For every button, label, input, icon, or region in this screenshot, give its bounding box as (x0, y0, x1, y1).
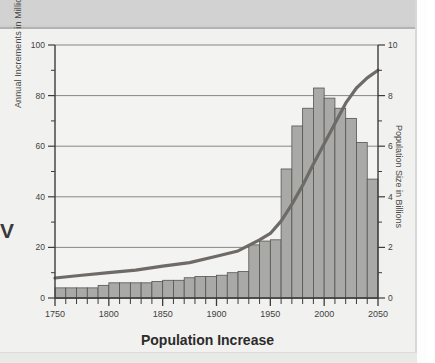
bar-1890 (206, 277, 217, 299)
bar-1770 (77, 288, 88, 298)
y2tick-label-6: 6 (388, 141, 393, 151)
bar-1860 (173, 280, 184, 298)
bar-1880 (195, 277, 206, 299)
x-axis-title: Population Increase (0, 332, 415, 348)
page-right-gutter (415, 0, 435, 363)
y2tick-label-4: 4 (388, 192, 393, 202)
y2tick-label-8: 8 (388, 91, 393, 101)
population-increase-chart: 0204060801000246810175018001850190019502… (0, 29, 415, 354)
bar-1980 (303, 108, 314, 298)
y2tick-label-10: 10 (388, 40, 398, 50)
bar-1920 (238, 271, 249, 298)
bar-1990 (313, 88, 324, 298)
page-top-band (0, 0, 417, 29)
bar-2020 (346, 118, 357, 298)
page-bottom-strip (0, 352, 417, 363)
ytick-label-80: 80 (36, 91, 46, 101)
bar-1940 (260, 241, 271, 298)
ytick-label-60: 60 (36, 141, 46, 151)
bar-1870 (184, 278, 195, 298)
bar-1840 (152, 282, 163, 298)
bar-1930 (249, 245, 260, 298)
y-axis-left-label-text: Annual Increments in Millions (13, 0, 23, 108)
bar-1760 (66, 288, 77, 298)
xtick-label-2000: 2000 (314, 309, 334, 319)
bar-1800 (109, 283, 120, 298)
xtick-label-1750: 1750 (45, 309, 65, 319)
bar-1810 (120, 283, 131, 298)
y2tick-label-2: 2 (388, 242, 393, 252)
bar-1970 (292, 126, 303, 298)
xtick-label-1950: 1950 (260, 309, 280, 319)
y-axis-right-label: Population Size in Billions (394, 125, 404, 295)
bar-1780 (87, 288, 98, 298)
bar-1900 (217, 275, 228, 298)
bar-1830 (141, 283, 152, 298)
bar-1850 (163, 280, 174, 298)
y-axis-left-label: Annual Increments in Millions (13, 0, 23, 108)
page-right-gutter-inner (427, 0, 435, 363)
xtick-label-1900: 1900 (206, 309, 226, 319)
bar-2030 (356, 142, 367, 298)
xtick-label-1850: 1850 (153, 309, 173, 319)
bar-1910 (227, 273, 238, 298)
xtick-label-2050: 2050 (368, 309, 388, 319)
bar-1820 (130, 283, 141, 298)
y2tick-label-0: 0 (388, 293, 393, 303)
bar-1950 (270, 240, 281, 298)
figure-page: V 02040608010002468101750180018501900195… (0, 0, 435, 363)
page-top-band-inner (0, 0, 415, 25)
xtick-label-1800: 1800 (99, 309, 119, 319)
y-axis-right-label-text: Population Size in Billions (394, 125, 404, 228)
bar-2040 (367, 179, 378, 298)
ytick-label-40: 40 (36, 192, 46, 202)
ytick-label-100: 100 (31, 40, 45, 50)
bar-1750 (55, 288, 66, 298)
bar-2010 (335, 108, 346, 298)
bar-1960 (281, 169, 292, 298)
bar-1790 (98, 285, 109, 298)
ytick-label-0: 0 (40, 293, 45, 303)
ytick-label-20: 20 (36, 242, 46, 252)
